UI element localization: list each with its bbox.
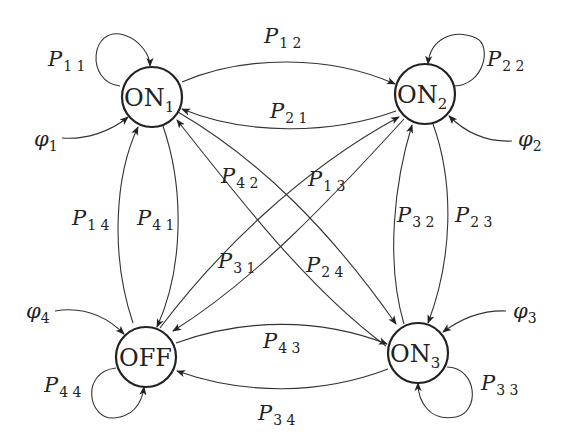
edge-p13 — [178, 112, 396, 324]
label-phi3: φ3 — [513, 299, 537, 326]
edge-p24 — [173, 119, 404, 331]
label-p23: P2 3 — [454, 203, 492, 230]
edge-p42 — [160, 117, 399, 328]
edge-p31 — [177, 120, 386, 346]
label-p21: P2 1 — [269, 99, 307, 126]
state-on1: ON1 — [122, 67, 182, 127]
label-p13: P1 3 — [307, 167, 345, 194]
label-p12: P1 2 — [263, 24, 301, 51]
label-p24: P2 4 — [305, 253, 343, 280]
edge-p12 — [182, 62, 395, 84]
state-off-label: OFF — [119, 344, 172, 372]
input-arrow-phi3 — [443, 311, 506, 332]
label-phi4: φ4 — [26, 299, 50, 326]
edge-p34 — [177, 369, 388, 389]
input-arrow-phi2 — [449, 116, 512, 141]
label-p43: P4 3 — [262, 329, 300, 356]
state-diagram: ON1 ON2 ON3 OFF P1 1 P2 2 P3 3 P4 4 φ1 φ… — [0, 0, 568, 446]
label-p31: P3 1 — [217, 249, 255, 276]
label-p41: P4 1 — [136, 206, 174, 233]
label-p22: P2 2 — [486, 47, 524, 74]
state-on2: ON2 — [395, 64, 455, 124]
state-on3: ON3 — [388, 323, 448, 383]
label-phi1: φ1 — [34, 127, 58, 154]
input-arrow-phi1 — [62, 117, 128, 138]
edge-p14 — [118, 127, 138, 323]
label-p44: P4 4 — [43, 373, 81, 400]
label-p11: P1 1 — [47, 47, 85, 74]
input-arrow-phi4 — [55, 310, 124, 334]
label-p14: P1 4 — [71, 206, 109, 233]
label-p33: P3 3 — [480, 371, 518, 398]
label-phi2: φ2 — [518, 127, 542, 154]
label-p32: P3 2 — [396, 203, 434, 230]
label-p34: P3 4 — [257, 401, 295, 428]
label-p42: P4 2 — [220, 164, 258, 191]
state-off: OFF — [116, 327, 176, 387]
